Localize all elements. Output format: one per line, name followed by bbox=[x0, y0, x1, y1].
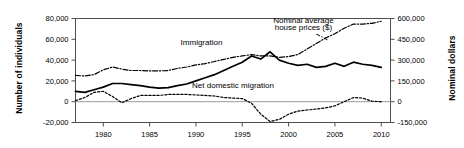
annotation-leader-lines bbox=[316, 34, 327, 40]
series-annotation-label: Immigration bbox=[181, 38, 223, 47]
x-tick-label: 2005 bbox=[327, 130, 344, 139]
y-tick-label-right: 450,000 bbox=[398, 35, 425, 44]
line-chart-plot: -20,000020,00040,00060,00080,000 -150,00… bbox=[0, 0, 464, 148]
x-tick-label: 1990 bbox=[188, 130, 205, 139]
series-annotation-label: Net domestic migration bbox=[192, 81, 274, 90]
y-tick-label-right: -150,000 bbox=[398, 118, 428, 127]
y-tick-label-left: 0 bbox=[64, 97, 68, 106]
y-tick-label-right: 600,000 bbox=[398, 14, 425, 23]
y-axis-right-title: Nominal dollars bbox=[447, 8, 457, 128]
y-axis-left-ticks: -20,000020,00040,00060,00080,000 bbox=[43, 14, 75, 127]
data-series-group bbox=[76, 21, 382, 121]
y-axis-right-ticks: -150,0000150,000300,000450,000600,000 bbox=[391, 14, 428, 127]
y-tick-label-right: 150,000 bbox=[398, 77, 425, 86]
y-tick-label-left: 80,000 bbox=[46, 14, 69, 23]
y-tick-label-right: 300,000 bbox=[398, 56, 425, 65]
y-axis-left-title: Number of individuals bbox=[14, 8, 24, 128]
x-tick-label: 2010 bbox=[373, 130, 390, 139]
x-tick-label: 1995 bbox=[234, 130, 251, 139]
series-annotation-label: house prices ($) bbox=[275, 23, 333, 32]
x-tick-label: 1980 bbox=[95, 130, 112, 139]
y-tick-label-right: 0 bbox=[398, 97, 402, 106]
plot-frame bbox=[76, 19, 391, 123]
chart-figure: Number of individuals Nominal dollars -2… bbox=[0, 0, 464, 148]
series-line bbox=[76, 91, 382, 121]
y-tick-label-left: -20,000 bbox=[43, 118, 68, 127]
x-tick-label: 2000 bbox=[280, 130, 297, 139]
x-tick-label: 1985 bbox=[141, 130, 158, 139]
x-axis-ticks: 1980198519901995200020052010 bbox=[95, 123, 390, 139]
y-tick-label-left: 60,000 bbox=[46, 35, 69, 44]
y-tick-label-left: 20,000 bbox=[46, 77, 69, 86]
y-tick-label-left: 40,000 bbox=[46, 56, 69, 65]
